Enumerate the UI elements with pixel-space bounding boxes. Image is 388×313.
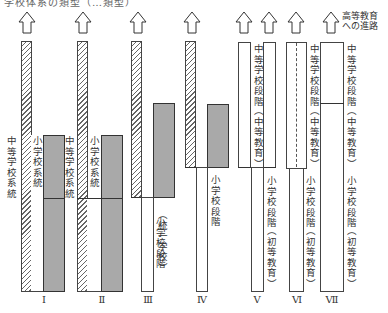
type-numeral: Ⅵ xyxy=(287,294,307,305)
primary-system-bar xyxy=(101,135,123,292)
arrow-up-icon xyxy=(19,12,35,33)
label-secondary-edu: （中等教育） xyxy=(309,106,319,169)
type-numeral: Ⅰ xyxy=(34,294,54,305)
label-primary-edu: （初等教育） xyxy=(266,226,276,289)
type-numeral: Ⅴ xyxy=(247,294,267,305)
label-secondary-stage: 中等学校段階 xyxy=(309,44,319,107)
dashed-divider xyxy=(296,43,297,167)
arrow-up-icon xyxy=(184,12,200,33)
label-secondary-stage: 中等学校段階 xyxy=(253,44,263,107)
type-numeral: Ⅱ xyxy=(92,294,112,305)
label-secondary-edu: （中等教育） xyxy=(346,106,356,169)
label-primary-system: 小学校系統 xyxy=(32,136,42,189)
arrow-up-icon xyxy=(261,12,277,33)
divider-line xyxy=(43,198,65,199)
secondary-bar-left xyxy=(238,42,251,168)
note-line-1: 高等教育 xyxy=(342,11,378,21)
label-unified-primary-stage: 小学校段階 xyxy=(155,217,165,270)
label-primary-stage: 小学校段階 xyxy=(305,176,315,229)
secondary-gray-bar xyxy=(207,104,229,168)
up-arrows xyxy=(0,0,388,40)
label-secondary-system: 中等学校系統 xyxy=(6,136,16,199)
label-primary-edu: （初等教育） xyxy=(305,226,315,289)
type-numeral: Ⅳ xyxy=(192,294,212,305)
unified-primary-bar xyxy=(141,197,154,292)
arrow-up-icon xyxy=(323,12,339,33)
type-numeral: Ⅶ xyxy=(322,294,342,305)
label-primary-stage: 小学校段階 xyxy=(210,175,220,228)
label-secondary-edu: （中等教育） xyxy=(253,106,263,169)
label-primary-edu: （初等教育） xyxy=(346,226,356,289)
label-secondary-system: 中等学校系統 xyxy=(64,136,74,199)
secondary-system-bar xyxy=(185,41,196,168)
secondary-gray-bar xyxy=(153,103,175,198)
secondary-system-bar xyxy=(131,41,142,198)
divider-line xyxy=(320,103,344,104)
label-primary-system: 小学校系統 xyxy=(89,136,99,189)
primary-stage-bar xyxy=(196,167,208,292)
arrow-up-icon xyxy=(288,12,304,33)
label-primary-stage: 小学校段階 xyxy=(266,176,276,229)
secondary-bar-right xyxy=(263,42,276,168)
arrow-up-icon xyxy=(236,12,252,33)
note-line-2: への進路 xyxy=(342,21,378,31)
label-primary-stage: 小学校段階 xyxy=(346,176,356,229)
unified-bar xyxy=(320,42,344,292)
gap-bar xyxy=(87,198,102,292)
higher-education-note: 高等教育 への進路 xyxy=(342,11,378,31)
type-numeral: Ⅲ xyxy=(138,294,158,305)
label-secondary-stage: 中等学校段階 xyxy=(346,44,356,107)
primary-system-bar xyxy=(43,135,65,292)
divider-line xyxy=(77,198,123,199)
arrow-up-icon xyxy=(130,12,146,33)
arrow-up-icon xyxy=(75,12,91,33)
primary-stage-bar xyxy=(251,167,264,292)
primary-stage-bar xyxy=(289,168,304,292)
